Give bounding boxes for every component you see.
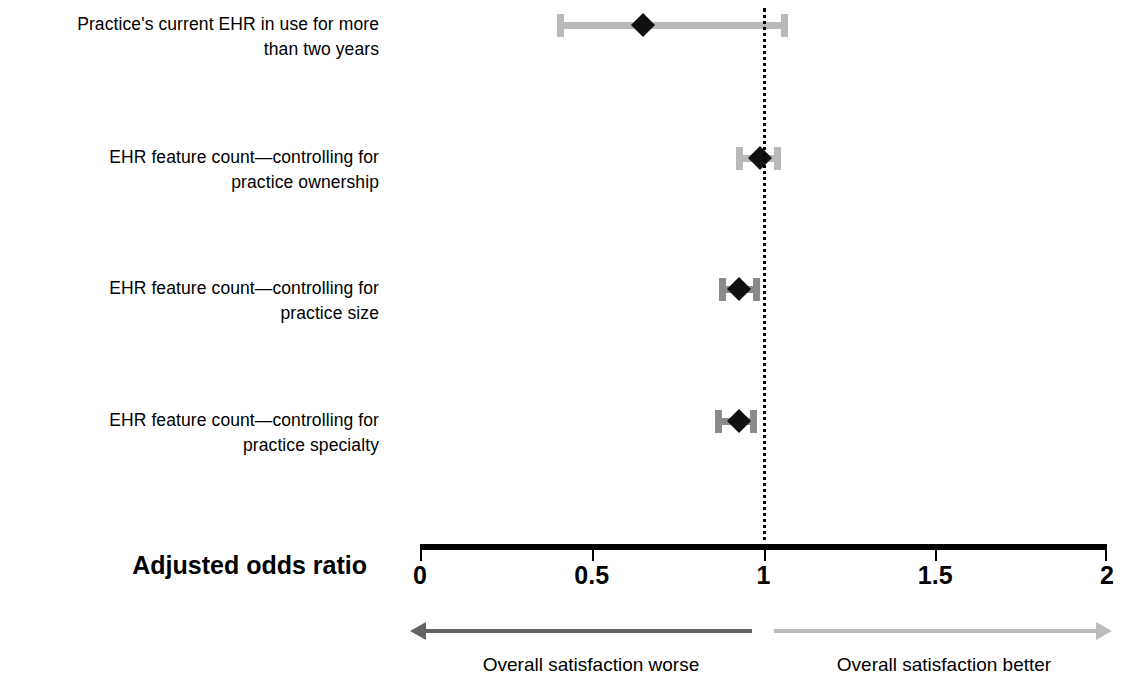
ci-row-2 bbox=[736, 144, 781, 172]
point-marker-diamond bbox=[727, 409, 751, 433]
arrow-shaft bbox=[774, 629, 1098, 633]
x-axis-tick bbox=[935, 550, 937, 561]
x-axis-tick-label: 0 bbox=[413, 561, 427, 590]
x-axis-tick-label: 1 bbox=[757, 561, 771, 590]
forest-plot-figure: Practice's current EHR in use for more t… bbox=[0, 0, 1124, 690]
x-axis-tick bbox=[420, 550, 422, 561]
x-axis-tick-label: 2 bbox=[1100, 561, 1114, 590]
x-axis-tick-label: 0.5 bbox=[574, 561, 609, 590]
ci-cap-low bbox=[736, 147, 743, 170]
point-marker-diamond bbox=[727, 277, 751, 301]
x-axis-tick-label: 1.5 bbox=[918, 561, 953, 590]
better-direction-arrow bbox=[774, 622, 1112, 640]
x-axis-tick bbox=[764, 550, 766, 561]
ci-row-3 bbox=[719, 275, 760, 303]
worse-direction-label: Overall satisfaction worse bbox=[483, 654, 699, 676]
arrow-head-right bbox=[1096, 622, 1112, 640]
arrow-head-left bbox=[410, 622, 426, 640]
ci-line bbox=[560, 22, 784, 29]
ci-cap-high bbox=[774, 147, 781, 170]
ci-cap-high bbox=[781, 14, 788, 37]
better-direction-label: Overall satisfaction better bbox=[837, 654, 1051, 676]
x-axis-title: Adjusted odds ratio bbox=[132, 551, 367, 580]
x-axis-tick bbox=[1105, 550, 1107, 561]
x-axis-tick bbox=[592, 550, 594, 561]
ci-cap-high bbox=[753, 278, 760, 301]
point-marker-diamond bbox=[631, 13, 655, 37]
arrow-shaft bbox=[424, 629, 752, 633]
ci-row-4 bbox=[715, 407, 756, 435]
ci-cap-low bbox=[715, 410, 722, 433]
ci-cap-low bbox=[557, 14, 564, 37]
row-label-4: EHR feature count—controlling for practi… bbox=[0, 408, 379, 458]
ci-cap-low bbox=[719, 278, 726, 301]
worse-direction-arrow bbox=[410, 622, 752, 640]
ci-row-1 bbox=[557, 11, 787, 39]
row-label-1: Practice's current EHR in use for more t… bbox=[0, 12, 379, 62]
reference-line-or-1 bbox=[763, 8, 766, 548]
point-marker-diamond bbox=[748, 146, 772, 170]
row-label-3: EHR feature count—controlling for practi… bbox=[0, 276, 379, 326]
row-label-2: EHR feature count—controlling for practi… bbox=[0, 145, 379, 195]
